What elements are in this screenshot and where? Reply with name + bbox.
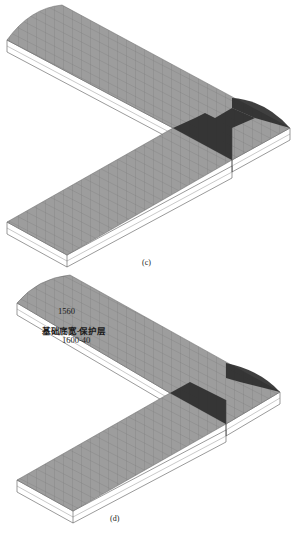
width-expression-label: 1600-40 (62, 335, 90, 345)
panel-d: 1560 基础底宽-保护层 1600-40 (d) (0, 270, 296, 536)
caption-d: (d) (110, 514, 119, 523)
caption-c: (c) (142, 258, 151, 267)
upper-arm-top-surface (7, 5, 290, 160)
panel-c: (c) (0, 0, 296, 270)
upper-arm-top-surface (17, 275, 280, 424)
footing-model-c (0, 0, 296, 270)
width-value-label: 1560 (58, 306, 75, 316)
footing-model-d (0, 270, 296, 536)
